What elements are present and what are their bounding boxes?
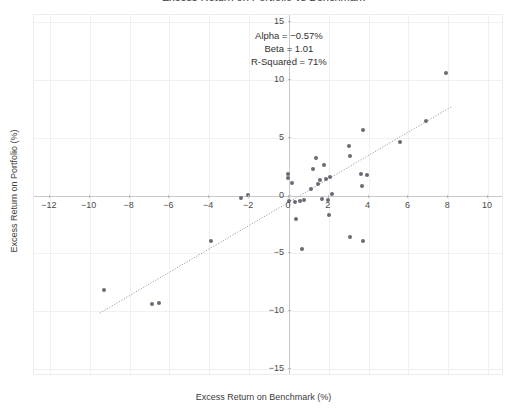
x-tick-label: 10 — [482, 200, 492, 210]
x-tick-mark — [208, 195, 209, 198]
x-axis-title: Excess Return on Benchmark (%) — [0, 392, 527, 402]
x-tick-label: 6 — [405, 200, 410, 210]
r-squared-label: R-Squared = 71% — [209, 55, 369, 68]
y-tick-mark — [288, 79, 291, 80]
x-tick-label: 4 — [365, 200, 370, 210]
data-point — [360, 184, 364, 188]
x-tick-mark — [447, 195, 448, 198]
y-tick-label: 5 — [254, 132, 284, 142]
y-tick-label: −10 — [254, 305, 284, 315]
data-point — [290, 181, 294, 185]
statistics-annotation: Alpha = −0.57% Beta = 1.01 R-Squared = 7… — [209, 29, 369, 68]
data-point — [348, 235, 352, 239]
y-axis-title: Excess Return on Portfolio (%) — [9, 91, 19, 291]
scatter-plot-figure: Excess Return on Portfolio vs Benchmark … — [0, 0, 527, 409]
data-point — [320, 197, 324, 201]
x-tick-label: 2 — [325, 200, 330, 210]
data-point — [361, 128, 365, 132]
data-point — [365, 173, 369, 177]
y-tick-mark — [288, 368, 291, 369]
x-tick-label: 8 — [445, 200, 450, 210]
y-tick-mark — [288, 195, 291, 196]
x-tick-label: −2 — [243, 200, 253, 210]
data-point — [348, 154, 352, 158]
x-tick-mark — [129, 195, 130, 198]
y-tick-mark — [288, 137, 291, 138]
data-point — [150, 302, 154, 306]
x-tick-label: −10 — [81, 200, 96, 210]
y-tick-label: 0 — [254, 190, 284, 200]
data-point — [286, 172, 290, 176]
data-point — [209, 239, 213, 243]
data-point — [294, 217, 298, 221]
data-point — [361, 239, 365, 243]
y-tick-label: 15 — [254, 16, 284, 26]
x-tick-mark — [328, 195, 329, 198]
y-tick-mark — [288, 21, 291, 22]
y-tick-label: −15 — [254, 363, 284, 373]
data-point — [311, 167, 315, 171]
data-point — [293, 200, 297, 204]
y-tick-mark — [288, 310, 291, 311]
data-point — [302, 198, 306, 202]
x-tick-mark — [49, 195, 50, 198]
data-point — [328, 175, 332, 179]
y-tick-mark — [288, 252, 291, 253]
data-point — [330, 192, 334, 196]
x-tick-mark — [487, 195, 488, 198]
x-tick-label: −8 — [123, 200, 133, 210]
x-tick-mark — [168, 195, 169, 198]
data-point — [300, 247, 304, 251]
x-tick-label: −12 — [41, 200, 56, 210]
data-point — [327, 213, 331, 217]
x-tick-label: 0 — [285, 200, 290, 210]
data-point — [309, 187, 313, 191]
x-tick-mark — [89, 195, 90, 198]
data-point — [347, 144, 351, 148]
x-tick-label: −6 — [163, 200, 173, 210]
data-point — [359, 172, 363, 176]
x-tick-mark — [407, 195, 408, 198]
x-tick-mark — [248, 195, 249, 198]
x-tick-label: −4 — [203, 200, 213, 210]
y-tick-label: −5 — [254, 247, 284, 257]
alpha-label: Alpha = −0.57% — [209, 29, 369, 42]
beta-label: Beta = 1.01 — [209, 42, 369, 55]
y-tick-label: 10 — [254, 74, 284, 84]
chart-title: Excess Return on Portfolio vs Benchmark — [0, 0, 527, 2]
x-tick-mark — [368, 195, 369, 198]
data-point — [316, 182, 320, 186]
